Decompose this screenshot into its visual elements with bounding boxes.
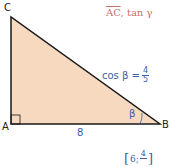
prompt-text: AC, tan γ xyxy=(106,7,152,18)
answer-open-bracket: [ xyxy=(124,151,129,166)
given-cos-beta: cos β = 4 5 xyxy=(102,67,149,84)
given-denominator: 5 xyxy=(143,76,148,84)
angle-beta-label: β xyxy=(129,108,135,119)
prompt-rest: , tan γ xyxy=(121,7,153,18)
vertex-c-label: C xyxy=(4,2,11,13)
given-fraction: 4 5 xyxy=(142,67,149,84)
prompt-segment: AC xyxy=(106,7,121,18)
vertex-b-label: B xyxy=(162,119,169,130)
answer-fraction: 4 xyxy=(140,150,147,167)
answer-close-bracket: ] xyxy=(148,151,153,166)
given-lhs: cos β = xyxy=(102,70,140,81)
answer-first: 6; xyxy=(130,154,139,164)
vertex-a-label: A xyxy=(2,121,9,132)
answer-text: [ 6; 4 ] xyxy=(124,150,153,167)
side-ab-length: 8 xyxy=(77,127,83,138)
